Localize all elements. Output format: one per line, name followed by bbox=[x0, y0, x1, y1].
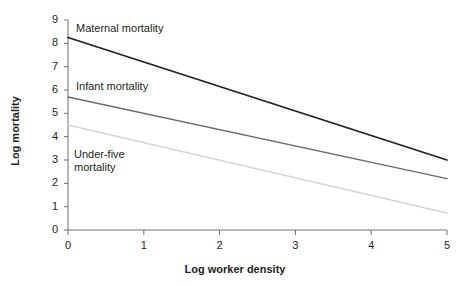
series-line-maternal-mortality bbox=[68, 38, 447, 161]
y-axis-tick-label: 8 bbox=[42, 36, 58, 48]
y-axis-tick-label: 1 bbox=[42, 200, 58, 212]
chart-figure: 0123456789 012345 Maternal mortality Inf… bbox=[0, 0, 470, 286]
y-axis-tick-label: 4 bbox=[42, 130, 58, 142]
y-axis-title: Log mortality bbox=[9, 86, 21, 176]
x-axis-tick-label: 1 bbox=[134, 239, 154, 251]
y-axis-tick-label: 0 bbox=[42, 223, 58, 235]
series-label-under-five-mortality: Under-five mortality bbox=[74, 148, 125, 174]
x-axis-tick-label: 2 bbox=[210, 239, 230, 251]
y-axis-tick-label: 7 bbox=[42, 60, 58, 72]
y-axis-tick-label: 6 bbox=[42, 83, 58, 95]
y-axis-tick-label: 3 bbox=[42, 153, 58, 165]
x-axis-title: Log worker density bbox=[0, 263, 470, 275]
x-axis-ticks bbox=[68, 230, 447, 235]
x-axis-tick-label: 5 bbox=[437, 239, 457, 251]
y-axis-tick-label: 5 bbox=[42, 106, 58, 118]
series-label-maternal-mortality: Maternal mortality bbox=[76, 22, 163, 35]
y-axis-tick-label: 9 bbox=[42, 13, 58, 25]
series-label-infant-mortality: Infant mortality bbox=[76, 80, 148, 93]
x-axis-tick-label: 4 bbox=[361, 239, 381, 251]
x-axis-tick-label: 0 bbox=[58, 239, 78, 251]
data-series-group bbox=[68, 38, 447, 213]
y-axis-tick-label: 2 bbox=[42, 176, 58, 188]
x-axis-tick-label: 3 bbox=[285, 239, 305, 251]
